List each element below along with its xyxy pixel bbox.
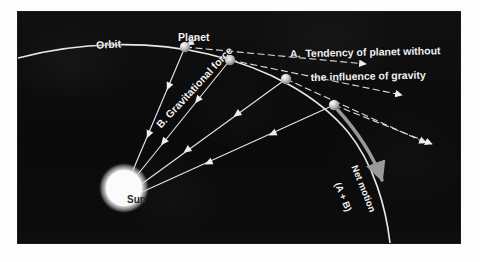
planet-marker-4 [329, 100, 339, 110]
gravity-line-2 [130, 60, 230, 184]
gravity-line-4 [142, 105, 334, 192]
gravity-head-4a [267, 129, 277, 139]
gravity-head-4b [203, 158, 213, 168]
tangent-arrow-2 [230, 60, 402, 95]
planet-marker-3 [281, 74, 291, 84]
orbit-diagram-canvas [18, 12, 460, 243]
sun-body [106, 170, 142, 206]
planet-markers [180, 42, 339, 110]
planet-marker-1 [180, 42, 190, 52]
gravity-arrowheads [144, 82, 278, 168]
gravity-line-1 [128, 47, 185, 182]
gravity-head-1b [144, 130, 154, 140]
net-motion-arrow [336, 108, 382, 180]
gravity-line-3 [136, 79, 286, 188]
orbit-path [18, 45, 390, 243]
tangent-arrow-group [185, 47, 432, 144]
gravity-head-1a [164, 82, 174, 92]
planet-marker-2 [225, 55, 235, 65]
astronomy-diagram-panel: Orbit Planet A.Tendency of planet withou… [18, 12, 460, 243]
gravity-arrow-group [128, 47, 334, 192]
figure-page: Orbit Planet A.Tendency of planet withou… [0, 0, 480, 262]
